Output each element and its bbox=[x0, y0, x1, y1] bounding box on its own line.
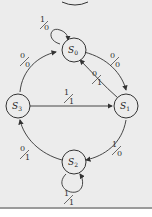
label-s2-s3: 0 1 bbox=[20, 144, 30, 162]
label-s2-s2: 1 1 bbox=[64, 189, 74, 207]
label-s3-s1: 1 1 bbox=[64, 88, 74, 106]
svg-text:1: 1 bbox=[69, 97, 74, 106]
svg-text:0: 0 bbox=[110, 51, 115, 60]
svg-text:1: 1 bbox=[112, 140, 117, 149]
svg-text:0: 0 bbox=[115, 60, 120, 69]
svg-text:1: 1 bbox=[25, 153, 30, 162]
edge-s3-s0 bbox=[20, 52, 56, 92]
svg-text:1: 1 bbox=[64, 189, 69, 198]
svg-text:1: 1 bbox=[69, 198, 74, 207]
svg-text:0: 0 bbox=[117, 149, 122, 158]
svg-text:0: 0 bbox=[25, 60, 30, 69]
svg-text:0: 0 bbox=[20, 51, 25, 60]
svg-text:1: 1 bbox=[97, 78, 102, 87]
svg-text:0: 0 bbox=[92, 69, 97, 78]
label-s3-s0: 0 0 bbox=[20, 51, 30, 69]
svg-text:1: 1 bbox=[64, 88, 69, 97]
cropped-node bbox=[62, 2, 88, 5]
svg-text:0: 0 bbox=[44, 23, 49, 32]
label-s1-s2: 1 0 bbox=[112, 140, 122, 158]
state-diagram: S0 S1 S2 S3 1 0 0 0 0 0 0 1 1 bbox=[0, 0, 152, 217]
svg-text:0: 0 bbox=[20, 144, 25, 153]
label-s1-s0: 0 1 bbox=[92, 69, 102, 87]
label-s0-s0: 1 0 bbox=[40, 15, 49, 32]
